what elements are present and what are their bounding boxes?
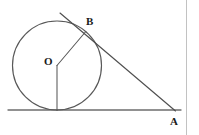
point-label-A: A <box>170 116 178 127</box>
point-label-O: O <box>44 56 53 67</box>
radius-O-to-B <box>57 32 86 66</box>
geometry-figure: O B A <box>0 0 199 135</box>
tangent-line-through-B-to-A <box>60 13 176 111</box>
point-label-B: B <box>86 16 93 27</box>
